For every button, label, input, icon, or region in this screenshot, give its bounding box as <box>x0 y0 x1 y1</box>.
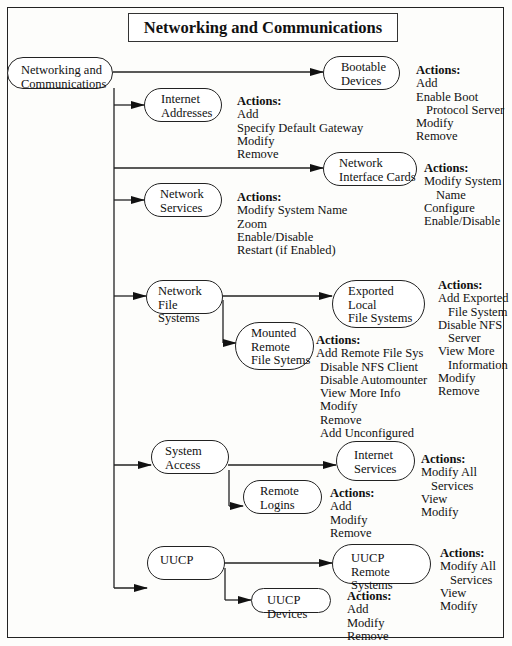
actions-uucp-devices: Actions: Add Modify Remove <box>347 590 391 643</box>
action-item[interactable]: Modify System <box>424 175 501 188</box>
action-item[interactable]: Modify <box>438 372 508 385</box>
action-item[interactable]: Disable NFS Client <box>316 361 427 374</box>
node-system-access[interactable]: System Access <box>151 440 229 474</box>
action-item[interactable]: Add Remote File Sys <box>316 347 427 360</box>
action-item[interactable]: File System <box>438 306 508 319</box>
node-network-file-systems[interactable]: Network File Systems <box>146 280 223 314</box>
action-item[interactable]: View <box>440 587 496 600</box>
action-item[interactable]: Remove <box>347 630 391 643</box>
actions-header: Actions: <box>330 487 374 500</box>
action-item[interactable]: Enable/Disable <box>237 231 347 244</box>
actions-header: Actions: <box>416 64 504 77</box>
action-item[interactable]: View More Info <box>316 387 427 400</box>
node-uucp-devices[interactable]: UUCP Devices <box>251 588 331 613</box>
node-networking-and-communications[interactable]: Networking and Communications <box>7 57 113 89</box>
action-item[interactable]: Add Exported <box>438 292 508 305</box>
actions-exported-local-file-systems: Actions: Add Exported File System Disabl… <box>438 279 508 399</box>
action-item[interactable]: Modify <box>237 135 363 148</box>
action-item[interactable]: Information <box>438 359 508 372</box>
action-item[interactable]: Services <box>440 574 496 587</box>
actions-network-services: Actions: Modify System Name Zoom Enable/… <box>237 191 347 257</box>
action-item[interactable]: Zoom <box>237 218 347 231</box>
actions-header: Actions: <box>347 590 391 603</box>
node-remote-logins[interactable]: Remote Logins <box>243 480 322 514</box>
action-item[interactable]: Modify <box>421 506 477 519</box>
action-item[interactable]: Remove <box>416 130 504 143</box>
action-item[interactable]: Disable Automounter <box>316 374 427 387</box>
action-item[interactable]: Remove <box>316 414 427 427</box>
action-item[interactable]: Add <box>237 108 363 121</box>
actions-uucp-remote-systems: Actions: Modify All Services View Modify <box>440 547 496 613</box>
node-exported-local-file-systems[interactable]: Exported Local File Systems <box>332 280 425 328</box>
actions-bootable-devices: Actions: Add Enable Boot Protocol Server… <box>416 64 504 144</box>
action-item[interactable]: Modify All <box>440 560 496 573</box>
action-item[interactable]: Restart (if Enabled) <box>237 244 347 257</box>
action-item[interactable]: Add Unconfigured <box>316 427 427 440</box>
action-item[interactable]: Specify Default Gateway <box>237 122 363 135</box>
action-item[interactable]: Server <box>438 332 508 345</box>
action-item[interactable]: Remove <box>330 527 374 540</box>
action-item[interactable]: Add <box>347 603 391 616</box>
action-item[interactable]: Remove <box>438 385 508 398</box>
action-item[interactable]: Add <box>330 500 374 513</box>
node-internet-addresses[interactable]: Internet Addresses <box>144 88 222 122</box>
action-item[interactable]: Modify <box>316 400 427 413</box>
actions-header: Actions: <box>421 453 477 466</box>
actions-header: Actions: <box>316 334 427 347</box>
action-item[interactable]: Enable Boot <box>416 91 504 104</box>
actions-header: Actions: <box>440 547 496 560</box>
node-mounted-remote-file-systems[interactable]: Mounted Remote File Sytems <box>235 322 314 370</box>
action-item[interactable]: Modify <box>440 600 496 613</box>
actions-mounted-remote-file-systems: Actions: Add Remote File Sys Disable NFS… <box>316 334 427 440</box>
node-internet-services[interactable]: Internet Services <box>336 441 415 481</box>
action-item[interactable]: Disable NFS <box>438 319 508 332</box>
action-item[interactable]: View More <box>438 345 508 358</box>
action-item[interactable]: Modify <box>330 514 374 527</box>
action-item[interactable]: Modify System Name <box>237 204 347 217</box>
action-item[interactable]: Services <box>421 480 477 493</box>
action-item[interactable]: Modify <box>347 617 391 630</box>
action-item[interactable]: View <box>421 493 477 506</box>
node-network-services[interactable]: Network Services <box>144 183 222 217</box>
action-item[interactable]: Modify All <box>421 466 477 479</box>
actions-header: Actions: <box>237 191 347 204</box>
actions-network-interface-cards: Actions: Modify System Name Configure En… <box>424 162 501 228</box>
action-item[interactable]: Name <box>424 189 501 202</box>
actions-remote-logins: Actions: Add Modify Remove <box>330 487 374 540</box>
actions-internet-services: Actions: Modify All Services View Modify <box>421 453 477 519</box>
actions-header: Actions: <box>424 162 501 175</box>
node-bootable-devices[interactable]: Bootable Devices <box>323 56 400 90</box>
action-item[interactable]: Modify <box>416 117 504 130</box>
actions-header: Actions: <box>438 279 508 292</box>
node-network-interface-cards[interactable]: Network Interface Cards <box>323 152 417 186</box>
node-uucp-remote-systems[interactable]: UUCP Remote Systems <box>332 544 431 584</box>
actions-header: Actions: <box>237 95 363 108</box>
diagram-title: Networking and Communications <box>128 13 398 42</box>
action-item[interactable]: Configure <box>424 202 501 215</box>
action-item[interactable]: Enable/Disable <box>424 215 501 228</box>
node-uucp[interactable]: UUCP <box>147 546 225 580</box>
action-item[interactable]: Protocol Server <box>416 104 504 117</box>
action-item[interactable]: Add <box>416 77 504 90</box>
